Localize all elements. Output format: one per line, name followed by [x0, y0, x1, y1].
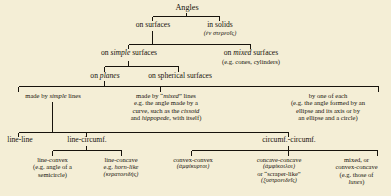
node-line-concave: line-concave e.g. horn-like (κερατοειδής… — [85, 156, 157, 177]
node-concave-concave-greek-2: (ξυστροειδεῖς) — [236, 177, 322, 184]
node-on-mixed-surfaces-post: surfaces — [251, 48, 278, 57]
node-mixed-convex-concave-body-2-post: ) — [362, 178, 364, 185]
node-on-spherical-surfaces-label: on spherical surfaces — [148, 71, 212, 80]
node-line-line-label: line-line — [7, 135, 32, 144]
node-made-by-mixed-lines: made by “mixed” lines e.g. the angle mad… — [105, 92, 227, 122]
node-on-surfaces-label: on surfaces — [136, 20, 170, 29]
node-on-spherical-surfaces: on spherical surfaces — [135, 72, 225, 81]
node-concave-concave: concave-concave (ἀμφίκοιλοι) or “scraper… — [236, 156, 322, 184]
node-by-one-of-each-head: by one of each — [266, 92, 390, 99]
node-on-mixed-surfaces: on mixed surfaces (e.g. cones, cylinders… — [196, 49, 306, 65]
node-angles-label: Angles — [175, 3, 198, 12]
node-line-line: line-line — [0, 136, 40, 145]
node-line-concave-greek: (κερατοειδής) — [85, 171, 157, 178]
node-on-planes: on planes — [79, 72, 131, 81]
node-made-by-simple-lines-post: lines — [67, 92, 81, 99]
node-made-by-mixed-lines-body-3: and hippopede, with itself) — [105, 114, 227, 121]
node-on-simple-surfaces-em: simple — [110, 48, 130, 57]
node-made-by-mixed-lines-head-em: mixed — [163, 92, 179, 99]
node-made-by-mixed-lines-body-3-post: , with itself) — [169, 114, 201, 121]
node-on-simple-surfaces-pre: on — [101, 48, 111, 57]
node-on-planes-em: planes — [100, 71, 120, 80]
node-angles: Angles — [160, 3, 214, 12]
node-mixed-convex-concave-head-1: mixed, or — [322, 156, 391, 163]
node-made-by-simple-lines-pre: made by — [25, 92, 49, 99]
node-mixed-convex-concave-head-2: convex-concave — [322, 163, 391, 170]
node-mixed-convex-concave-body-1: (e.g. those of — [322, 171, 391, 178]
node-made-by-simple-lines: made by simple lines — [3, 92, 103, 99]
node-line-circumf: line-circumf. — [53, 136, 121, 145]
node-on-simple-surfaces: on simple surfaces — [93, 49, 165, 58]
node-on-simple-surfaces-post: surfaces — [130, 48, 157, 57]
node-by-one-of-each-body-3: an ellipse and a circle) — [266, 114, 390, 121]
node-line-convex-body-1: (e.g. angle of a — [11, 163, 94, 170]
node-on-mixed-surfaces-pre: on — [224, 48, 234, 57]
node-on-mixed-surfaces-em: mixed — [233, 48, 251, 57]
node-line-convex-body-2: semicircle) — [11, 171, 94, 178]
node-on-planes-pre: on — [90, 71, 100, 80]
node-in-solids: in solids (ἐν στερεοῖς) — [189, 21, 251, 36]
node-by-one-of-each-body-2: ellipse and its axis or by — [266, 107, 390, 114]
node-by-one-of-each: by one of each (e.g. the angle formed by… — [266, 92, 390, 122]
node-on-surfaces: on surfaces — [118, 21, 188, 30]
node-made-by-mixed-lines-body-3-pre: and — [131, 114, 142, 121]
node-concave-concave-greek-1: (ἀμφίκοιλοι) — [236, 163, 322, 170]
node-made-by-mixed-lines-body-3-em: hippopede — [142, 114, 169, 121]
node-on-mixed-surfaces-note: (e.g. cones, cylinders) — [196, 58, 306, 65]
node-made-by-mixed-lines-body-2-em: cissoid — [181, 107, 199, 114]
node-convex-convex: convex-convex (ἀμφίκυρτοι) — [156, 156, 230, 170]
node-in-solids-greek: (ἐν στερεοῖς) — [189, 30, 251, 37]
node-made-by-mixed-lines-head-post: ” lines — [179, 92, 196, 99]
node-made-by-mixed-lines-body-2: curve, such as the cissoid — [105, 107, 227, 114]
node-line-convex-head: line-convex — [11, 156, 94, 163]
node-made-by-mixed-lines-body-1: e.g. the angle made by a — [105, 99, 227, 106]
node-circumf-circumf-label: circumf.-circumf. — [262, 135, 316, 144]
node-mixed-convex-concave: mixed, or convex-concave (e.g. those of … — [322, 156, 391, 185]
node-line-circumf-label: line-circumf. — [67, 135, 106, 144]
node-mixed-convex-concave-body-2-em: lunes — [349, 178, 363, 185]
node-made-by-mixed-lines-head-pre: made by “ — [136, 92, 163, 99]
node-convex-convex-greek: (ἀμφίκυρτοι) — [156, 163, 230, 170]
node-mixed-convex-concave-body-2: lunes) — [322, 178, 391, 185]
node-line-concave-head: line-concave — [85, 156, 157, 163]
node-by-one-of-each-body-1: (e.g. the angle formed by an — [266, 99, 390, 106]
node-made-by-mixed-lines-body-2-pre: curve, such as the — [133, 107, 182, 114]
node-made-by-simple-lines-em: simple — [49, 92, 66, 99]
node-line-convex: line-convex (e.g. angle of a semicircle) — [11, 156, 94, 178]
node-circumf-circumf: circumf.-circumf. — [246, 136, 332, 145]
angles-classification-tree: Angles on surfaces in solids (ἐν στερεοῖ… — [0, 0, 391, 196]
